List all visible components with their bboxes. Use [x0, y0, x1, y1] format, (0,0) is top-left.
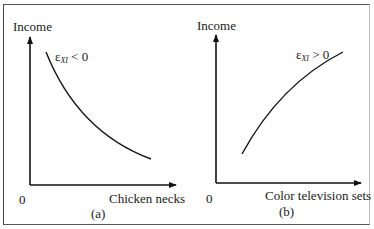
panel-b-engel-curve	[242, 52, 343, 154]
panel-b-y-label: Income	[197, 19, 236, 32]
panel-a-elasticity-label: εXI < 0	[55, 50, 88, 65]
panel-a-axes	[30, 37, 176, 185]
panel-a-y-label: Income	[13, 20, 52, 33]
panel-b-origin-label: 0	[206, 192, 213, 205]
panel-b-elasticity-label: εXI > 0	[296, 48, 329, 63]
panel-a-engel-curve	[46, 52, 151, 159]
panel-b-x-label: Color television sets	[265, 189, 371, 202]
panel-a-origin-label: 0	[19, 193, 26, 206]
panel-a-x-label: Chicken necks	[109, 192, 185, 205]
panel-a-caption: (a)	[91, 207, 105, 220]
panel-b-axes	[216, 35, 361, 183]
panel-b-caption: (b)	[279, 205, 294, 218]
